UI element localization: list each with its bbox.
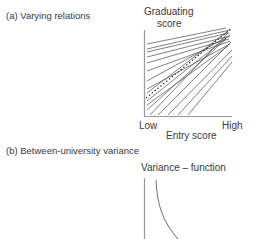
panel-b-variance-curve <box>156 180 178 239</box>
figure-canvas <box>0 0 253 239</box>
panel-a-university-lines <box>147 28 232 115</box>
